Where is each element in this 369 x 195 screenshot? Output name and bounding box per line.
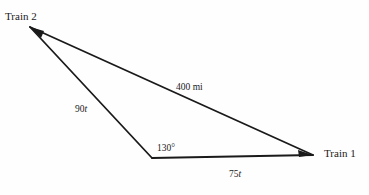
triangle-diagram: Train 2 Train 1 400 mi 90t 75t 130° [0, 0, 369, 195]
side-hypotenuse-line [30, 27, 313, 155]
vertex-label-train2: Train 2 [5, 11, 37, 22]
side-label-left: 90t [75, 105, 87, 115]
vertex-label-train1: Train 1 [324, 148, 356, 159]
arrowhead-train2-icon [30, 27, 44, 38]
side-label-left-number: 90 [75, 104, 85, 114]
side-left-line [30, 27, 152, 158]
side-label-bottom-number: 75 [229, 169, 239, 179]
angle-label-corner: 130° [157, 144, 175, 154]
triangle-svg [0, 0, 369, 195]
side-label-bottom: 75t [229, 170, 241, 180]
side-bottom-line [152, 155, 313, 158]
side-label-bottom-variable: t [239, 169, 242, 179]
side-label-hypotenuse: 400 mi [176, 83, 203, 93]
side-label-left-variable: t [85, 104, 88, 114]
